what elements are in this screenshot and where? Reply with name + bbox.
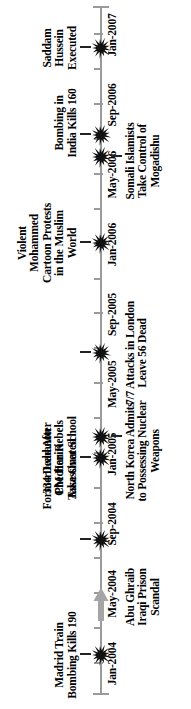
event-leader-line [80,134,91,136]
event-marker-india-bombing [90,124,112,146]
timeline-axis-end [93,6,109,8]
event-caption: Violent Mohammed Cartoon Protests in the… [16,203,78,283]
event-marker-saddam-hussein-executed [90,37,112,59]
event-marker-somali-islamists-mogadishu [90,146,112,168]
axis-tick-major [94,382,103,384]
axis-tick-major [94,312,103,314]
event-leader-line [80,457,91,459]
timeline-progress-arrow [93,587,109,621]
timeline-figure: Jan-2004May-2004Sep-2004Jan-2005May-2005… [0,0,191,709]
event-caption: Madrid Train Bombing Kills 190 [53,611,78,698]
event-caption: Abu Ghraib Iraqi Prison Scandal [124,568,161,626]
axis-tick-minor [94,208,100,210]
axis-tick-minor [94,278,100,280]
axis-tick-major [94,103,103,105]
event-leader-line [80,242,91,244]
axis-tick-minor [94,557,100,559]
axis-tick-minor [94,68,100,70]
event-leader-line [111,156,122,158]
event-marker-mohammed-cartoon-protests [90,232,112,254]
event-caption: North Korea Admits to Possessing Nuclear… [124,400,161,501]
event-caption: 7/7 Attacks in London Leave 56 Dead [124,301,149,405]
event-leader-line [80,47,91,49]
axis-tick-minor [94,627,100,629]
event-leader-line [80,654,91,656]
event-marker-hariri-assassination [90,447,112,469]
event-caption: Bombing in India Kills 160 [53,88,78,157]
event-leader-line [80,352,91,354]
axis-date-label: Sep-2006 [106,83,118,126]
event-leader-line [80,539,91,541]
event-marker-chechen-school-siege [90,529,112,551]
axis-tick-major [94,33,103,35]
axis-date-label: Sep-2005 [106,293,118,336]
event-caption: Somali Islamists Take Control of Mogadis… [124,123,161,200]
event-marker-london-7-7-attacks [90,342,112,364]
axis-tick-minor [94,417,100,419]
event-leader-line [111,436,122,438]
axis-tick-major [94,173,103,175]
event-marker-madrid-train-bombing [90,644,112,666]
event-marker-north-korea-nuclear [90,426,112,448]
event-caption: Saddam Hussein Executed [41,26,78,70]
axis-tick-major [94,522,103,524]
axis-date-label: May-2005 [106,361,118,409]
event-caption: Former Lebanon PM Hariri Assassinated [41,429,78,510]
axis-tick-minor [94,487,100,489]
timeline-axis-start [93,693,109,695]
